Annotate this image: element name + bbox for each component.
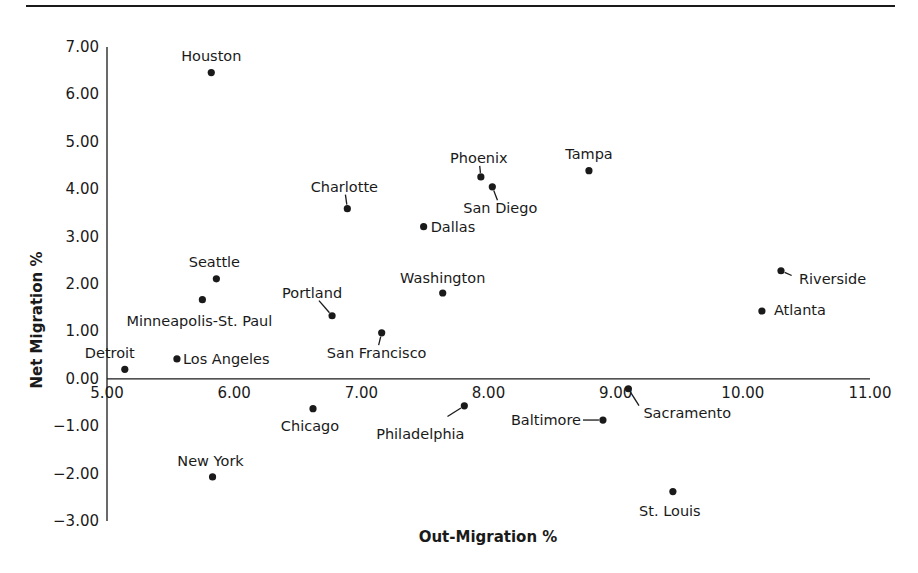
point-label: Baltimore [511, 412, 581, 428]
point-marker [777, 267, 784, 274]
point-label: Philadelphia [376, 426, 464, 442]
data-point: Philadelphia [376, 402, 468, 442]
data-point: Portland [282, 285, 342, 320]
data-point: New York [177, 453, 244, 481]
data-point: Chicago [281, 405, 339, 434]
point-label: Tampa [564, 146, 613, 162]
point-label: Atlanta [774, 302, 826, 318]
x-axis-title: Out-Migration % [419, 528, 558, 546]
leader-line [379, 337, 381, 345]
point-marker [209, 473, 216, 480]
y-tick-label: 2.00 [66, 275, 99, 293]
point-marker [439, 289, 446, 296]
point-label: Riverside [799, 271, 866, 287]
point-label: Washington [400, 270, 485, 286]
point-marker [328, 312, 335, 319]
x-tick-label: 8.00 [472, 384, 505, 402]
point-marker [344, 205, 351, 212]
point-label: Seattle [189, 254, 240, 270]
point-marker [213, 275, 220, 282]
y-tick-label: 6.00 [66, 85, 99, 103]
data-point: Sacramento [625, 385, 731, 421]
y-tick-label: 1.00 [66, 322, 99, 340]
y-tick-label: −3.00 [53, 512, 99, 530]
leader-line [345, 195, 346, 205]
y-tick-label: 7.00 [66, 38, 99, 56]
data-point: Detroit [85, 345, 135, 373]
data-point: St. Louis [639, 488, 701, 519]
y-tick-label: 5.00 [66, 133, 99, 151]
data-point: Seattle [189, 254, 240, 283]
point-marker [378, 329, 385, 336]
y-tick-label: 3.00 [66, 228, 99, 246]
data-point: Los Angeles [173, 351, 269, 367]
x-tick-label: 6.00 [217, 384, 250, 402]
point-marker [477, 173, 484, 180]
point-label: St. Louis [639, 503, 701, 519]
point-marker [489, 183, 496, 190]
point-marker [208, 69, 215, 76]
y-axis-title: Net Migration % [28, 252, 46, 389]
data-point: Charlotte [311, 179, 378, 213]
point-label: San Diego [463, 200, 537, 216]
point-marker [585, 167, 592, 174]
x-tick-label: 11.00 [849, 384, 892, 402]
data-points: HoustonCharlottePhoenixSan DiegoTampaDal… [85, 48, 867, 519]
data-point: Washington [400, 270, 485, 297]
point-marker [669, 488, 676, 495]
y-tick-label: −1.00 [53, 417, 99, 435]
point-label: Charlotte [311, 179, 378, 195]
point-label: Portland [282, 285, 342, 301]
point-label: New York [177, 453, 244, 469]
point-label: Los Angeles [183, 351, 270, 367]
point-marker [173, 355, 180, 362]
point-marker [625, 385, 632, 392]
point-marker [199, 296, 206, 303]
point-label: Minneapolis-St. Paul [126, 313, 272, 329]
data-point: San Francisco [327, 329, 427, 361]
point-marker [461, 402, 468, 409]
data-point: San Diego [463, 183, 537, 216]
data-point: Atlanta [758, 302, 826, 318]
point-label: Dallas [431, 219, 476, 235]
point-label: Sacramento [643, 405, 731, 421]
point-label: Chicago [281, 418, 339, 434]
leader-line [447, 408, 460, 417]
point-marker [121, 366, 128, 373]
point-label: Detroit [85, 345, 135, 361]
data-point: Phoenix [450, 150, 508, 181]
scatter-chart: 7.006.005.004.003.002.001.000.00−1.00−2.… [0, 0, 918, 573]
data-point: Houston [181, 48, 241, 77]
point-marker [599, 416, 606, 423]
point-marker [309, 405, 316, 412]
data-point: Baltimore [511, 412, 607, 428]
x-tick-label: 7.00 [345, 384, 378, 402]
leader-line [480, 166, 481, 173]
leader-line [319, 301, 329, 313]
leader-line [785, 272, 792, 275]
data-point: Tampa [564, 146, 613, 175]
point-marker [758, 307, 765, 314]
x-tick-label: 10.00 [721, 384, 764, 402]
data-point: Riverside [777, 267, 866, 287]
point-marker [420, 223, 427, 230]
point-label: Phoenix [450, 150, 508, 166]
x-tick-label: 5.00 [90, 384, 123, 402]
y-tick-label: −2.00 [53, 465, 99, 483]
y-tick-label: 4.00 [66, 180, 99, 198]
data-point: Dallas [420, 219, 475, 235]
data-point: Minneapolis-St. Paul [126, 296, 272, 329]
point-label: Houston [181, 48, 241, 64]
point-label: San Francisco [327, 345, 427, 361]
